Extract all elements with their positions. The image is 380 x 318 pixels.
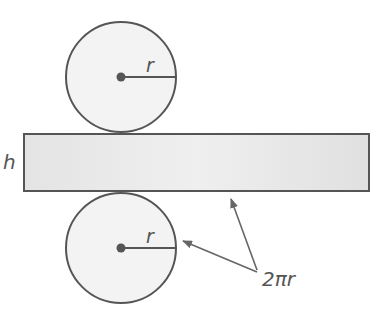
arrow-to-circle-icon: [183, 241, 257, 272]
bottom-radius-label: r: [146, 225, 155, 247]
bottom-center-dot: [117, 244, 126, 253]
lateral-rectangle: h: [3, 134, 369, 191]
height-label: h: [3, 150, 16, 174]
circumference-arrows: 2πr: [183, 199, 297, 291]
diagram-svg: r h r 2πr: [0, 0, 380, 318]
top-center-dot: [117, 73, 126, 82]
bottom-circle: r: [66, 193, 176, 303]
top-radius-label: r: [146, 54, 155, 76]
circumference-label: 2πr: [262, 267, 297, 291]
top-circle: r: [66, 22, 176, 132]
cylinder-net-diagram: r h r 2πr: [0, 0, 380, 318]
arrow-to-rectangle-icon: [231, 199, 257, 270]
